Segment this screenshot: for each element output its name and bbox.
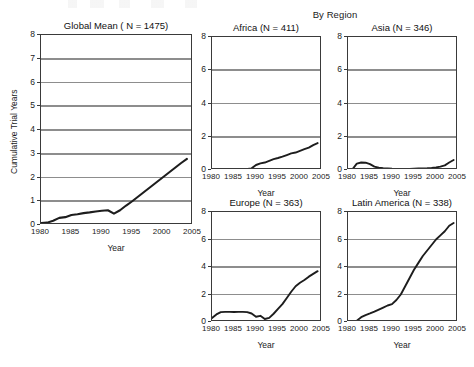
ytick-label-latin-america-6: 6 — [328, 235, 342, 244]
ytick-label-global-mean-4: 4 — [21, 125, 35, 134]
ytick-label-europe-6: 6 — [192, 235, 206, 244]
by-region-title: By Region — [196, 9, 474, 20]
figure-root: By Region Global Mean ( N = 1475) 012345… — [0, 0, 474, 367]
ytick-mark-latin-america-8 — [344, 211, 347, 212]
cropped-header-text — [60, 0, 250, 8]
ytick-mark-global-mean-4 — [37, 129, 40, 130]
ytick-label-europe-8: 8 — [192, 207, 206, 216]
series-line-europe — [212, 212, 321, 321]
ytick-label-asia-4: 4 — [328, 99, 342, 108]
ytick-label-asia-2: 2 — [328, 132, 342, 141]
ytick-label-africa-2: 2 — [192, 132, 206, 141]
ytick-mark-asia-0 — [344, 169, 347, 170]
ytick-label-global-mean-8: 8 — [21, 30, 35, 39]
xtick-label-global-mean-1995: 1995 — [116, 228, 146, 236]
ytick-label-global-mean-6: 6 — [21, 78, 35, 87]
series-line-latin-america — [348, 212, 457, 321]
ytick-label-europe-2: 2 — [192, 290, 206, 299]
panel-title-europe: Europe (N = 363) — [211, 197, 321, 208]
y-axis-title-global-mean: Cumulative Trial Years — [9, 89, 19, 174]
xtick-label-global-mean-2000: 2000 — [147, 228, 177, 236]
ytick-mark-europe-8 — [208, 211, 211, 212]
ytick-label-africa-4: 4 — [192, 99, 206, 108]
panel-global-mean: Global Mean ( N = 1475) 0123456781980198… — [40, 34, 192, 238]
ytick-mark-europe-6 — [208, 239, 211, 240]
ytick-mark-global-mean-6 — [37, 82, 40, 83]
panel-europe: Europe (N = 363) 02468198019851990199520… — [211, 211, 321, 361]
panel-title-latin-america: Latin America (N = 338) — [347, 197, 457, 208]
ytick-mark-asia-8 — [344, 36, 347, 37]
series-line-asia — [348, 37, 457, 169]
ytick-mark-europe-0 — [208, 321, 211, 322]
plot-area-africa — [211, 36, 321, 169]
ytick-label-asia-6: 6 — [328, 65, 342, 74]
x-axis-title-global-mean: Year — [40, 243, 192, 253]
series-path-africa — [212, 143, 318, 169]
x-axis-title-europe: Year — [211, 340, 321, 350]
ytick-mark-global-mean-5 — [37, 105, 40, 106]
ytick-label-asia-8: 8 — [328, 32, 342, 41]
ytick-label-global-mean-2: 2 — [21, 173, 35, 182]
series-line-africa — [212, 37, 321, 169]
ytick-mark-europe-4 — [208, 266, 211, 267]
xtick-label-asia-2005: 2005 — [442, 173, 472, 181]
ytick-label-africa-8: 8 — [192, 32, 206, 41]
series-path-latin-america — [348, 223, 454, 321]
ytick-mark-global-mean-3 — [37, 153, 40, 154]
ytick-mark-global-mean-7 — [37, 58, 40, 59]
x-axis-title-latin-america: Year — [347, 340, 457, 350]
panel-africa: Africa (N = 411) 02468198019851990199520… — [211, 36, 321, 186]
plot-area-asia — [347, 36, 457, 169]
plot-area-europe — [211, 211, 321, 321]
ytick-mark-europe-2 — [208, 294, 211, 295]
panel-title-global-mean: Global Mean ( N = 1475) — [40, 20, 192, 31]
ytick-label-global-mean-3: 3 — [21, 149, 35, 158]
xtick-label-global-mean-1985: 1985 — [55, 228, 85, 236]
ytick-mark-global-mean-8 — [37, 34, 40, 35]
ytick-mark-global-mean-0 — [37, 224, 40, 225]
ytick-label-africa-6: 6 — [192, 65, 206, 74]
ytick-label-europe-4: 4 — [192, 262, 206, 271]
ytick-mark-asia-6 — [344, 69, 347, 70]
panel-title-asia: Asia (N = 346) — [347, 22, 457, 33]
series-path-asia — [348, 160, 454, 169]
ytick-mark-latin-america-0 — [344, 321, 347, 322]
ytick-mark-global-mean-1 — [37, 200, 40, 201]
ytick-label-global-mean-1: 1 — [21, 196, 35, 205]
ytick-mark-latin-america-4 — [344, 266, 347, 267]
ytick-mark-africa-6 — [208, 69, 211, 70]
ytick-label-latin-america-8: 8 — [328, 207, 342, 216]
ytick-mark-africa-2 — [208, 136, 211, 137]
series-line-global-mean — [41, 35, 192, 224]
series-path-europe — [212, 271, 318, 319]
ytick-mark-asia-4 — [344, 103, 347, 104]
xtick-label-global-mean-1980: 1980 — [25, 228, 55, 236]
ytick-mark-latin-america-6 — [344, 239, 347, 240]
series-path-global-mean — [41, 159, 187, 223]
panel-latin-america: Latin America (N = 338) 0246819801985199… — [347, 211, 457, 361]
ytick-mark-africa-4 — [208, 103, 211, 104]
plot-area-global-mean — [40, 34, 192, 224]
ytick-mark-africa-0 — [208, 169, 211, 170]
ytick-label-latin-america-4: 4 — [328, 262, 342, 271]
plot-area-latin-america — [347, 211, 457, 321]
ytick-mark-latin-america-2 — [344, 294, 347, 295]
ytick-label-global-mean-5: 5 — [21, 101, 35, 110]
xtick-label-global-mean-1990: 1990 — [86, 228, 116, 236]
ytick-mark-asia-2 — [344, 136, 347, 137]
panel-asia: Asia (N = 346) 0246819801985199019952000… — [347, 36, 457, 186]
ytick-label-latin-america-2: 2 — [328, 290, 342, 299]
ytick-mark-africa-8 — [208, 36, 211, 37]
ytick-mark-global-mean-2 — [37, 177, 40, 178]
panel-title-africa: Africa (N = 411) — [211, 22, 321, 33]
xtick-label-latin-america-2005: 2005 — [442, 325, 472, 333]
ytick-label-global-mean-7: 7 — [21, 54, 35, 63]
